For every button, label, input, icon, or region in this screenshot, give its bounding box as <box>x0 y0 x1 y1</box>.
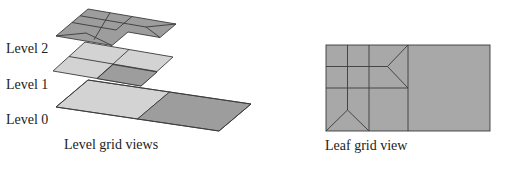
level-0-grid <box>56 80 251 131</box>
level-0-label: Level 0 <box>6 112 48 127</box>
level-grid-views-caption: Level grid views <box>64 137 158 152</box>
level-2-grid <box>56 9 176 46</box>
level-2-label: Level 2 <box>6 41 48 56</box>
leaf-grid-view-caption: Leaf grid view <box>325 138 408 153</box>
level-1-grid <box>53 42 173 86</box>
level-1-label: Level 1 <box>6 77 48 92</box>
grid-diagram: Level 2 Level 1 Level 0 Level grid views… <box>0 0 506 169</box>
leaf-grid <box>326 45 490 131</box>
